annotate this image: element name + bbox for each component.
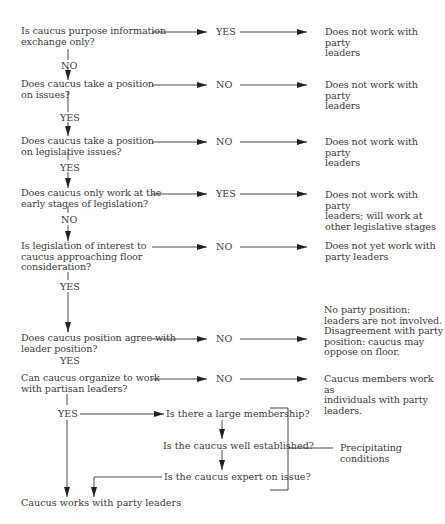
down-answer-7: YES [58, 409, 78, 419]
side-answer-6: NO [216, 334, 232, 344]
precipitating-conditions-label: Precipitating conditions [340, 443, 402, 464]
outcome-7: Caucus members work as individuals with … [324, 374, 445, 416]
final-outcome: Caucus works with party leaders [21, 498, 181, 508]
side-answer-5: NO [216, 242, 232, 252]
outcome-2: Does not work with party leaders [325, 80, 445, 112]
question-1: Is caucus purpose information exchange o… [21, 26, 166, 47]
outcome-4: Does not work with party leaders; will w… [325, 190, 445, 232]
question-3: Does caucus take a position on legislati… [21, 136, 154, 157]
down-answer-2: YES [60, 113, 80, 123]
condition-large-membership: Is there a large membership? [166, 409, 310, 419]
side-answer-7: NO [216, 374, 232, 384]
outcome-3: Does not work with party leaders [325, 137, 445, 169]
question-6: Does caucus position agree with leader p… [21, 333, 176, 354]
down-answer-1: NO [61, 61, 77, 71]
side-answer-2: NO [216, 80, 232, 90]
down-answer-6: YES [60, 356, 80, 366]
question-5: Is legislation of interest to caucus app… [21, 241, 146, 273]
down-answer-5: YES [60, 282, 80, 292]
question-2: Does caucus take a position on issues? [21, 79, 154, 100]
side-answer-4: YES [216, 189, 236, 199]
outcome-1: Does not work with party leaders [325, 27, 445, 59]
condition-expert-on-issue: Is the caucus expert on issue? [164, 472, 311, 482]
side-answer-1: YES [216, 27, 236, 37]
question-7: Can caucus organize to work with partisa… [21, 373, 160, 394]
side-answer-3: NO [216, 137, 232, 147]
outcome-6: No party position: leaders are not invol… [324, 305, 443, 358]
condition-well-established: Is the caucus well established? [163, 441, 314, 451]
outcome-5: Does not yet work with party leaders [325, 241, 436, 262]
question-4: Does caucus only work at the early stage… [21, 188, 161, 209]
down-answer-3: YES [60, 163, 80, 173]
down-answer-4: NO [61, 215, 77, 225]
